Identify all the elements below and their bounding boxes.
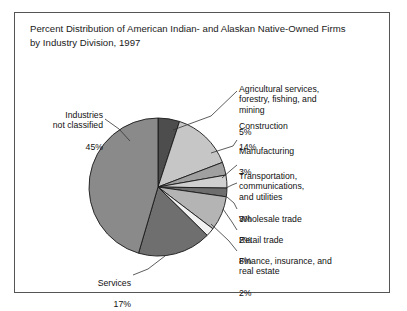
slice-label-services: Services 17% bbox=[39, 267, 131, 311]
slice-label-services-name: Services bbox=[39, 278, 131, 289]
leader-line-finance bbox=[211, 224, 237, 251]
figure-frame: Percent Distribution of American Indian-… bbox=[14, 12, 390, 293]
slice-label-transportation-name: Transportation, communications, and util… bbox=[239, 171, 304, 203]
slice-label-unclassified-name: Industries not classified bbox=[25, 110, 103, 131]
leader-line-services bbox=[133, 256, 165, 275]
pie-chart: Agricultural services, forestry, fishing… bbox=[15, 13, 391, 294]
slice-label-wholesale-name: Wholesale trade bbox=[239, 214, 302, 225]
slice-label-manufacturing-name: Manufacturing bbox=[239, 146, 294, 157]
leader-line-retail bbox=[223, 209, 237, 230]
slice-label-unclassified: Industries not classified 45% bbox=[25, 99, 103, 163]
slice-label-unclassified-value: 45% bbox=[25, 142, 103, 153]
slice-label-finance-value: 2% bbox=[239, 288, 332, 299]
slice-label-services-value: 17% bbox=[39, 299, 131, 310]
slice-label-retail-name: Retail trade bbox=[239, 235, 283, 246]
pie-slices bbox=[89, 118, 227, 256]
leader-line-transportation bbox=[226, 183, 237, 188]
slice-label-finance: Finance, insurance, and real estate 2% bbox=[239, 245, 332, 309]
slice-label-finance-name: Finance, insurance, and real estate bbox=[239, 256, 332, 277]
slice-label-construction-name: Construction bbox=[239, 121, 288, 132]
leader-line-wholesale bbox=[227, 197, 237, 209]
